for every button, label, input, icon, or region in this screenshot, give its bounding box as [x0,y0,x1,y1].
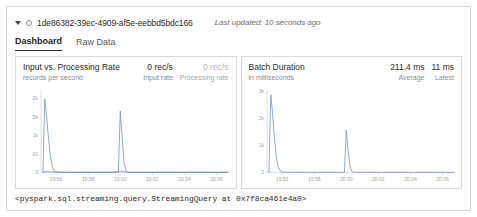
svg-text:20:02: 20:02 [372,176,385,182]
stat-label: Input rate [143,73,173,83]
svg-text:2k: 2k [258,115,264,121]
chevron-down-icon[interactable] [15,19,22,26]
stat-label: Processing rate [180,73,229,83]
svg-text:20:00: 20:00 [114,176,127,182]
stat-value: 11 ms [431,62,454,72]
tab-raw-data[interactable]: Raw Data [76,37,116,51]
stat-latest: 11 ms Latest [431,62,454,83]
svg-text:.5k: .5k [31,114,38,120]
panel-title-group: Batch Duration in milliseconds [249,62,305,83]
panel-subtitle: in milliseconds [249,73,305,83]
batch-duration-chart: 1k2k3k019:5619:5820:0020:0220:0420:06 [242,85,462,188]
stat-label: Average [390,73,424,83]
svg-text:0: 0 [35,169,38,175]
streaming-query-repr: <pyspark.sql.streaming.query.StreamingQu… [15,194,306,203]
svg-text:20:04: 20:04 [178,176,191,182]
svg-text:20:00: 20:00 [340,176,353,182]
stat-value: 0 rec/s [143,62,173,72]
svg-text:19:58: 19:58 [307,176,320,182]
panel-subtitle: records per second [23,73,120,83]
query-id: 1de86382-39ec-4909-af5e-eebbd5bdc166 [37,18,193,28]
panel-header: Input vs. Processing Rate records per se… [16,57,236,85]
panel-title: Input vs. Processing Rate [23,62,120,72]
screenshot-root: 1de86382-39ec-4909-af5e-eebbd5bdc166 Las… [0,0,477,217]
svg-text:19:56: 19:56 [50,176,63,182]
panels-container: Input vs. Processing Rate records per se… [15,56,462,189]
svg-text:1k: 1k [258,142,264,148]
panel-header: Batch Duration in milliseconds 211.4 ms … [242,57,462,85]
stat-value: 211.4 ms [390,62,424,72]
last-updated-text: Last updated: 10 seconds ago [215,18,321,27]
svg-text:20:04: 20:04 [404,176,417,182]
stat-label: Latest [431,73,454,83]
stat-processing-rate: 0 rec/s Processing rate [180,62,229,83]
panel-stats: 0 rec/s Input rate 0 rec/s Processing ra… [143,62,228,83]
svg-text:3k: 3k [258,88,264,94]
tab-bar: Dashboard Raw Data [15,35,116,51]
stat-value: 0 rec/s [180,62,229,72]
panel-stats: 211.4 ms Average 11 ms Latest [390,62,454,83]
panel-title-group: Input vs. Processing Rate records per se… [23,62,120,83]
tab-dashboard[interactable]: Dashboard [15,36,62,51]
svg-text:19:56: 19:56 [275,176,288,182]
svg-text:20:02: 20:02 [146,176,159,182]
panel-batch-duration: Batch Duration in milliseconds 211.4 ms … [241,56,463,189]
svg-text:.00: .00 [31,151,38,157]
svg-text:20:06: 20:06 [436,176,449,182]
query-header: 1de86382-39ec-4909-af5e-eebbd5bdc166 Las… [15,16,320,29]
streaming-query-card: 1de86382-39ec-4909-af5e-eebbd5bdc166 Las… [6,6,471,211]
svg-text:19:58: 19:58 [82,176,95,182]
panel-input-vs-processing-rate: Input vs. Processing Rate records per se… [15,56,237,189]
panel-title: Batch Duration [249,62,305,72]
svg-text:0: 0 [261,169,264,175]
svg-text:20:06: 20:06 [210,176,223,182]
input-vs-processing-rate-chart: .001k.5k2k019:5619:5820:0020:0220:0420:0… [16,85,236,188]
svg-text:2k: 2k [33,95,39,101]
svg-text:1k: 1k [33,132,39,138]
stat-average: 211.4 ms Average [390,62,424,83]
stat-input-rate: 0 rec/s Input rate [143,62,173,83]
status-circle-icon [26,20,32,26]
